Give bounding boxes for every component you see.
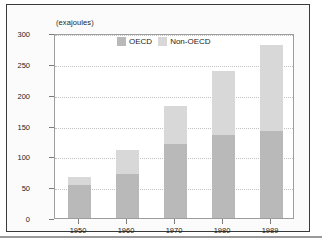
y-axis-unit-caption: (exajoules) [56, 18, 94, 27]
legend-item[interactable]: OECD [117, 37, 152, 46]
figure-frame: (exajoules) 050100150200250300 195019601… [6, 4, 310, 232]
y-axis-tick-mark [49, 127, 54, 128]
legend-swatch-icon [158, 37, 167, 46]
y-axis-tick-label: 0 [0, 215, 30, 224]
x-axis-tick-mark [174, 219, 175, 224]
bar-group[interactable] [116, 33, 139, 218]
bar-segment-non-oecd[interactable] [116, 150, 139, 173]
bottom-divider [0, 236, 322, 238]
x-axis-tick-label: 1950 [58, 226, 98, 235]
bar-segment-non-oecd[interactable] [68, 177, 91, 186]
chart-page: (exajoules) 050100150200250300 195019601… [0, 0, 322, 245]
bar-segment-oecd[interactable] [164, 144, 187, 218]
bar-segment-oecd[interactable] [260, 131, 283, 218]
bar-segment-non-oecd[interactable] [260, 45, 283, 131]
y-axis-tick-label: 100 [0, 153, 30, 162]
bar-segment-oecd[interactable] [68, 185, 91, 218]
legend-item-label: Non-OECD [170, 37, 210, 46]
y-axis-tick-label: 300 [0, 30, 30, 39]
y-axis-tick-label: 150 [0, 123, 30, 132]
bar-group[interactable] [212, 33, 235, 218]
y-axis-tick-mark [49, 65, 54, 66]
x-axis-tick-mark [78, 219, 79, 224]
bar-segment-oecd[interactable] [116, 174, 139, 218]
bar-group[interactable] [164, 33, 187, 218]
x-axis-tick-mark [222, 219, 223, 224]
y-axis-tick-label: 50 [0, 184, 30, 193]
x-axis-tick-mark [126, 219, 127, 224]
legend-swatch-icon [117, 37, 126, 46]
legend-item[interactable]: Non-OECD [158, 37, 210, 46]
y-axis-tick-mark [49, 96, 54, 97]
x-axis-tick-mark [270, 219, 271, 224]
x-axis-tick-label: 1960 [106, 226, 146, 235]
y-axis-tick-mark [49, 219, 54, 220]
y-axis-tick-mark [49, 188, 54, 189]
bar-segment-oecd[interactable] [212, 135, 235, 218]
x-axis-tick-label: 1970 [154, 226, 194, 235]
y-axis-tick-label: 200 [0, 92, 30, 101]
chart-legend: OECDNon-OECD [117, 37, 211, 46]
bar-segment-non-oecd[interactable] [212, 71, 235, 135]
plot-area [54, 34, 294, 219]
y-axis-tick-mark [49, 157, 54, 158]
y-axis-tick-label: 250 [0, 61, 30, 70]
bar-segment-non-oecd[interactable] [164, 106, 187, 144]
bar-group[interactable] [260, 33, 283, 218]
x-axis-tick-label: 1980 [202, 226, 242, 235]
y-axis-tick-mark [49, 34, 54, 35]
legend-item-label: OECD [129, 37, 152, 46]
bar-group[interactable] [68, 33, 91, 218]
x-axis-tick-label: 1989 [250, 226, 290, 235]
